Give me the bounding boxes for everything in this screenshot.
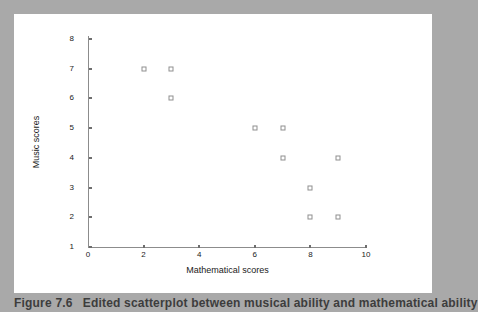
y-tick-label-1: 1 [14, 243, 78, 251]
y-tick-label-6: 6 [14, 94, 78, 102]
scatter-plot: 12345678 0246810 0 Music scores Mathemat… [14, 14, 432, 293]
x-tick-mark-8 [309, 245, 311, 248]
y-tick-label-5: 5 [14, 124, 78, 132]
data-point [280, 126, 285, 131]
data-point [169, 66, 174, 71]
x-tick-mark-6 [254, 245, 256, 248]
y-tick-label-7: 7 [14, 65, 78, 73]
y-tick-mark-7 [89, 68, 92, 70]
data-point [141, 66, 146, 71]
y-tick-mark-2 [89, 216, 92, 218]
data-point [308, 215, 313, 220]
y-tick-mark-1 [89, 246, 92, 248]
x-tick-label-2: 2 [141, 251, 145, 259]
x-tick-label-6: 6 [253, 251, 257, 259]
y-tick-label-2: 2 [14, 213, 78, 221]
y-tick-mark-5 [89, 127, 92, 129]
data-point [169, 96, 174, 101]
x-tick-mark-2 [143, 245, 145, 248]
x-tick-label-10: 10 [362, 251, 371, 259]
figure-panel: 12345678 0246810 0 Music scores Mathemat… [14, 14, 432, 293]
y-tick-label-4: 4 [14, 154, 78, 162]
y-tick-label-3: 3 [14, 184, 78, 192]
data-point [280, 155, 285, 160]
x-tick-mark-10 [365, 245, 367, 248]
origin-tick-label: 0 [86, 251, 90, 259]
data-point [336, 155, 341, 160]
data-point [308, 185, 313, 190]
x-tick-label-8: 8 [308, 251, 312, 259]
x-axis-line [88, 247, 367, 248]
y-tick-label-8: 8 [14, 35, 78, 43]
y-tick-mark-4 [89, 157, 92, 159]
y-tick-mark-3 [89, 187, 92, 189]
data-point [252, 126, 257, 131]
figure-caption-text: Edited scatterplot between musical abili… [83, 296, 478, 310]
y-tick-mark-6 [89, 97, 92, 99]
figure-number: Figure 7.6 [14, 296, 73, 310]
data-point [336, 215, 341, 220]
y-axis-title: Music scores [31, 116, 41, 169]
y-tick-mark-8 [89, 38, 92, 40]
figure-caption: Figure 7.6Edited scatterplot between mus… [14, 296, 439, 310]
x-tick-mark-4 [198, 245, 200, 248]
x-axis-title: Mathematical scores [88, 265, 367, 275]
x-tick-label-4: 4 [197, 251, 201, 259]
